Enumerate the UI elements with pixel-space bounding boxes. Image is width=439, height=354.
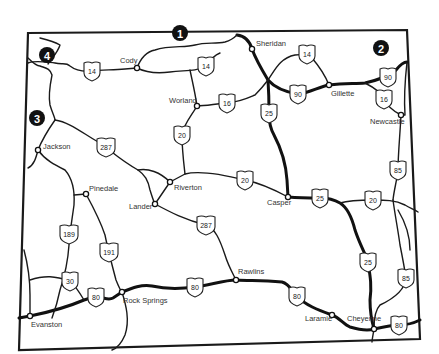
route-number: 80 [395,322,403,329]
route-shield-25: 25 [360,253,376,272]
city-label: Cody [120,56,138,65]
route-shield-20: 20 [174,126,190,145]
callout-4: 4 [39,47,55,63]
city-label: Lander [129,202,153,211]
route-shield-287: 287 [197,216,215,235]
wyoming-road-map: 1414141690901625202872025208528718919130… [0,0,439,354]
callouts: 1234 [29,25,389,126]
city-marker-icon [152,201,157,206]
city-label: Riverton [174,183,202,192]
city-marker-icon [167,179,172,184]
route-number: 16 [380,96,388,103]
route-shield-20: 20 [365,191,381,210]
route-number: 20 [369,197,377,204]
callout-number: 2 [378,43,384,55]
city-label: Sheridan [256,39,286,48]
city-riverton: Riverton [167,179,202,192]
city-marker-icon [119,289,124,294]
route-number: 80 [191,284,199,291]
route-number: 25 [364,259,372,266]
city-lander: Lander [129,201,158,211]
route-number: 25 [316,195,324,202]
city-marker-icon [35,147,40,152]
city-marker-icon [371,326,376,331]
route-shield-191: 191 [100,243,118,262]
city-marker-icon [134,65,139,70]
route-shield-80: 80 [289,287,305,306]
callout-number: 3 [34,113,40,125]
route-number: 14 [88,68,96,75]
city-casper: Casper [267,194,292,207]
route-number: 16 [223,100,231,107]
route-number: 287 [100,144,112,151]
route-number: 90 [384,74,392,81]
city-marker-icon [27,313,32,318]
route-shield-80: 80 [88,288,104,307]
callout-3: 3 [29,110,45,126]
callout-2: 2 [373,40,389,56]
route-number: 90 [294,91,302,98]
city-label: Jackson [43,142,71,151]
route-shield-85: 85 [390,161,406,180]
city-laramie: Laramie [305,312,335,323]
city-marker-icon [83,191,88,196]
route-number: 85 [394,167,402,174]
route-shield-80: 80 [187,278,203,297]
route-shield-90: 90 [290,85,306,104]
callout-number: 4 [44,50,51,62]
city-label: Pinedale [89,184,118,193]
route-shield-80: 80 [391,316,407,335]
route-shield-16: 16 [219,94,235,113]
route-number: 25 [265,110,273,117]
city-label: Worland [169,96,197,105]
city-pinedale: Pinedale [83,184,118,197]
city-label: Rawlins [238,267,265,276]
route-shield-14: 14 [198,57,214,76]
route-shield-189: 189 [60,225,78,244]
route-number: 80 [293,293,301,300]
city-label: Rock Springs [123,296,168,305]
route-number: 80 [92,294,100,301]
route-number: 287 [200,222,212,229]
route-shield-14: 14 [84,62,100,81]
city-label: Casper [267,198,292,207]
interstate-roads [19,35,420,330]
city-label: Cheyenne [347,314,381,323]
route-shield-20: 20 [237,171,253,190]
city-newcastle: Newcastle [370,112,405,126]
route-number: 191 [103,249,115,256]
city-sheridan: Sheridan [249,39,286,52]
route-number: 14 [303,51,311,58]
city-evanston: Evanston [27,313,62,329]
route-shield-30: 30 [62,272,78,291]
route-shield-16: 16 [376,90,392,109]
route-number: 30 [66,278,74,285]
city-marker-icon [233,277,238,282]
route-number: 14 [202,63,210,70]
route-shield-14: 14 [299,45,315,64]
route-number: 20 [241,177,249,184]
route-shield-287: 287 [97,138,115,157]
city-label: Gillette [331,89,354,98]
city-label: Laramie [305,314,332,323]
route-number: 85 [402,275,410,282]
city-label: Evanston [31,320,62,329]
callout-number: 1 [177,28,183,40]
callout-1: 1 [172,25,188,41]
route-number: 189 [63,231,75,238]
city-label: Newcastle [370,117,405,126]
city-marker-icon [326,82,331,87]
route-shield-90: 90 [380,68,396,87]
route-number: 20 [178,132,186,139]
route-shield-25: 25 [261,104,277,123]
route-shield-85: 85 [398,269,414,288]
city-marker-icon [249,46,254,51]
city-worland: Worland [169,96,200,109]
route-shield-25: 25 [312,189,328,208]
